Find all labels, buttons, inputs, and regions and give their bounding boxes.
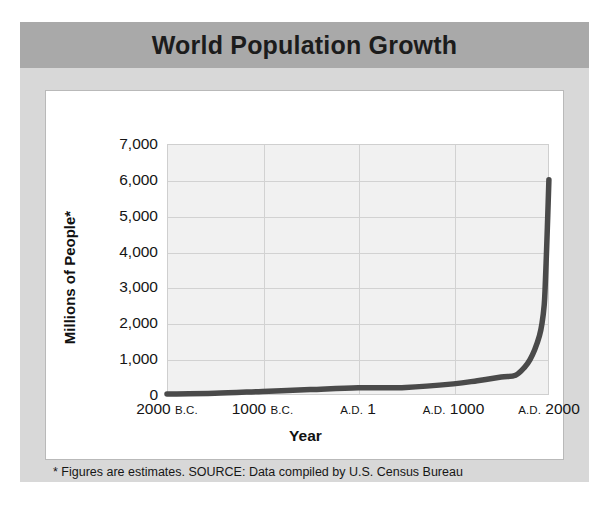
x-tick-era: A.D. <box>423 404 446 416</box>
x-tick-label: 2000 B.C. <box>136 400 198 418</box>
chart-card: Millions of People* 01,0002,0003,0004,00… <box>45 90 564 460</box>
chart-figure: Millions of People* 01,0002,0003,0004,00… <box>46 91 565 461</box>
x-tick-label: 1000 B.C. <box>232 400 294 418</box>
x-tick-number: 1000 <box>232 400 266 417</box>
x-tick-era: A.D. <box>340 404 363 416</box>
x-tick-number: 1 <box>367 400 376 417</box>
x-tick-number: 2000 <box>136 400 170 417</box>
x-tick-label: A.D. 1 <box>340 400 376 418</box>
x-tick-era: B.C. <box>271 404 294 416</box>
title-bar: World Population Growth <box>20 22 589 68</box>
x-tick-era: B.C. <box>175 404 198 416</box>
chart-panel: World Population Growth Millions of Peop… <box>20 22 589 482</box>
x-tick-era: A.D. <box>518 404 541 416</box>
footnote-bar: * Figures are estimates. SOURCE: Data co… <box>45 462 564 482</box>
x-tick-number: 1000 <box>450 400 484 417</box>
x-tick-label: A.D. 2000 <box>518 400 580 418</box>
x-tick-label: A.D. 1000 <box>423 400 485 418</box>
x-axis-tick-labels: 2000 B.C.1000 B.C.A.D. 1A.D. 1000A.D. 20… <box>167 400 549 424</box>
page-title: World Population Growth <box>152 31 458 60</box>
footnote-text: * Figures are estimates. SOURCE: Data co… <box>45 465 463 479</box>
x-tick-number: 2000 <box>545 400 579 417</box>
x-axis-title: Year <box>46 427 565 445</box>
